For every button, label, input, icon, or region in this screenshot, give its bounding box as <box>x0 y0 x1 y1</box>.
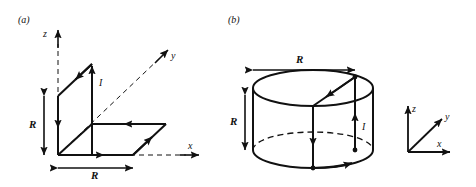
dimension-label-height-a: R <box>29 119 36 130</box>
current-path-b <box>311 75 358 171</box>
panel-b-tag: (b) <box>228 15 240 25</box>
dimension-label-height-b: R <box>230 116 237 127</box>
current-loop-horizontal-a <box>58 124 166 155</box>
axis-label-x-a: x <box>188 141 192 151</box>
current-label-b: I <box>362 122 365 132</box>
axis-label-y-b: y <box>445 112 449 122</box>
panel-a-graphics <box>44 30 199 168</box>
figure-vector-canvas <box>0 0 476 187</box>
panel-a-tag: (a) <box>18 15 30 25</box>
dimension-label-radius-b: R <box>296 54 303 65</box>
current-loop-vertical-a <box>58 64 92 155</box>
axis-label-z-a: z <box>43 29 47 39</box>
axis-label-z-b: z <box>412 104 416 114</box>
panel-b-graphics <box>245 70 450 170</box>
physics-figure: (a) z y x I R R (b) R R I z y x <box>0 0 476 187</box>
dimension-label-width-a: R <box>91 170 98 181</box>
axis-label-y-a: y <box>171 51 175 61</box>
axis-label-x-b: x <box>437 139 441 149</box>
current-label-a: I <box>99 78 102 88</box>
